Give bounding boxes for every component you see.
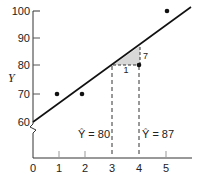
y-tick-60: 60 — [18, 116, 30, 128]
data-point — [137, 63, 142, 68]
y-tick-100: 100 — [12, 5, 30, 17]
axis-break-icon — [30, 120, 36, 158]
data-point — [165, 9, 170, 14]
yhat-87-label: Ŷ = 87 — [142, 128, 174, 140]
yhat-80-label: Ŷ = 80 — [78, 128, 110, 140]
x-tick-4: 4 — [136, 162, 142, 174]
y-tick-90: 90 — [18, 32, 30, 44]
data-point — [55, 92, 60, 97]
x-tick-0: 0 — [30, 162, 36, 174]
x-tick-1: 1 — [56, 162, 62, 174]
run-label: 1 — [123, 65, 128, 75]
regression-chart: 100 90 80 70 60 Y 0 1 2 3 4 5 1 7 Ŷ = 80… — [0, 0, 200, 175]
y-tick-80: 80 — [18, 59, 30, 71]
slope-triangle — [113, 46, 140, 65]
y-axis-label: Y — [8, 71, 16, 85]
rise-label: 7 — [143, 51, 148, 61]
x-tick-3: 3 — [109, 162, 115, 174]
x-tick-2: 2 — [82, 162, 88, 174]
x-tick-5: 5 — [163, 162, 169, 174]
data-point — [80, 92, 85, 97]
y-tick-70: 70 — [18, 88, 30, 100]
